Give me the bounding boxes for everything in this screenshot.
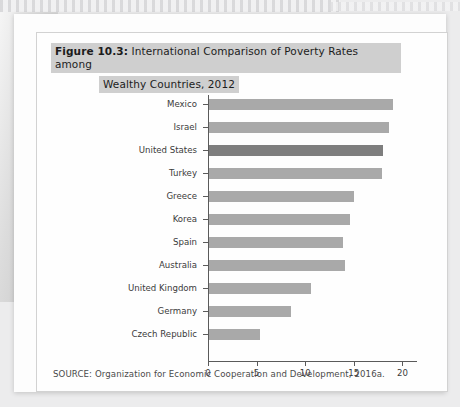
bar-row: Mexico [37, 95, 449, 118]
x-axis-tick [257, 361, 258, 366]
bar [209, 168, 382, 179]
bar-row: Czech Republic [37, 325, 449, 348]
bar [209, 283, 311, 294]
category-label: Mexico [167, 99, 197, 109]
bar-chart-plot-area: MexicoIsraelUnited StatesTurkeyGreeceKor… [37, 93, 449, 378]
y-axis-tick [203, 127, 208, 128]
bar-row: United Kingdom [37, 279, 449, 302]
figure-title: Figure 10.3: International Comparison of… [51, 43, 401, 93]
y-axis-tick [203, 265, 208, 266]
y-axis-tick [203, 196, 208, 197]
bar-row: Germany [37, 302, 449, 325]
category-label: Germany [158, 306, 198, 316]
figure-title-line-1: Figure 10.3: International Comparison of… [51, 43, 401, 73]
bar-row: Greece [37, 187, 449, 210]
bar [209, 306, 291, 317]
category-label: Turkey [169, 168, 197, 178]
y-axis-tick [203, 104, 208, 105]
bar-row: Korea [37, 210, 449, 233]
category-label: Australia [159, 260, 197, 270]
category-label: United States [139, 145, 197, 155]
bar [209, 237, 343, 248]
y-axis-tick [203, 150, 208, 151]
figure-container: Figure 10.3: International Comparison of… [36, 32, 448, 392]
x-axis-tick [208, 361, 209, 366]
bar [209, 122, 389, 133]
x-axis-tick [305, 361, 306, 366]
bar [209, 145, 383, 156]
y-axis-tick [203, 173, 208, 174]
category-label: Czech Republic [132, 329, 197, 339]
category-label: Greece [166, 191, 197, 201]
bar [209, 329, 260, 340]
bar [209, 214, 350, 225]
book-page: Figure 10.3: International Comparison of… [14, 14, 446, 392]
y-axis-tick [203, 311, 208, 312]
source-note: SOURCE: Organization for Economic Cooper… [53, 369, 385, 379]
page-top-ruled-strip-right [330, 2, 460, 11]
figure-title-line-2: Wealthy Countries, 2012 [99, 76, 239, 93]
x-axis-tick [402, 361, 403, 366]
x-axis-line [208, 361, 417, 362]
bar-row: Australia [37, 256, 449, 279]
category-label: United Kingdom [128, 283, 197, 293]
y-axis-tick [203, 288, 208, 289]
y-axis-tick [203, 242, 208, 243]
bar [209, 260, 345, 271]
y-axis-tick [203, 219, 208, 220]
bar-row: Turkey [37, 164, 449, 187]
x-axis-tick [354, 361, 355, 366]
figure-number: Figure 10.3: [55, 45, 128, 57]
category-label: Israel [174, 122, 198, 132]
x-axis-tick-label: 20 [397, 368, 408, 378]
bar-row: Israel [37, 118, 449, 141]
bar-row: Spain [37, 233, 449, 256]
category-label: Korea [173, 214, 197, 224]
category-label: Spain [173, 237, 197, 247]
bar-row: United States [37, 141, 449, 164]
bar [209, 191, 354, 202]
bar [209, 99, 393, 110]
page-top-ruled-strip [0, 0, 340, 12]
y-axis-tick [203, 334, 208, 335]
